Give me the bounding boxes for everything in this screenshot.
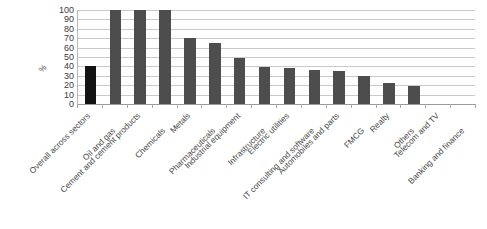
x-axis-tick	[102, 104, 103, 108]
bar[interactable]	[234, 58, 245, 104]
x-axis-tick-marks	[77, 104, 475, 109]
x-axis-tick	[201, 104, 202, 108]
x-axis-tick	[475, 104, 476, 108]
x-axis-tick	[400, 104, 401, 108]
bar[interactable]	[209, 43, 220, 104]
x-axis-tick	[351, 104, 352, 108]
x-axis-tick	[127, 104, 128, 108]
x-axis-tick	[450, 104, 451, 108]
x-axis-tick	[77, 104, 78, 108]
y-axis-tick-labels: 1009080706050403020100	[48, 10, 74, 104]
bar[interactable]	[110, 10, 121, 104]
x-axis-tick	[301, 104, 302, 108]
bar-chart: % 1009080706050403020100 Overall across …	[0, 0, 487, 229]
bar[interactable]	[259, 67, 270, 104]
y-axis-tick-label: 0	[69, 100, 74, 109]
bar[interactable]	[408, 86, 419, 104]
plot-area	[77, 10, 475, 104]
x-axis-tick	[152, 104, 153, 108]
x-axis-tick	[376, 104, 377, 108]
bar[interactable]	[184, 38, 195, 104]
x-axis-tick	[226, 104, 227, 108]
bar[interactable]	[309, 70, 320, 104]
x-axis-tick	[177, 104, 178, 108]
x-axis-tick	[276, 104, 277, 108]
bar-series	[78, 10, 475, 104]
x-axis-tick	[251, 104, 252, 108]
bar[interactable]	[134, 10, 145, 104]
bar[interactable]	[333, 71, 344, 104]
bar[interactable]	[85, 66, 96, 104]
bar[interactable]	[159, 10, 170, 104]
bar[interactable]	[284, 68, 295, 104]
bar[interactable]	[358, 76, 369, 104]
x-axis-tick	[326, 104, 327, 108]
x-axis-tick	[425, 104, 426, 108]
bar[interactable]	[383, 83, 394, 104]
